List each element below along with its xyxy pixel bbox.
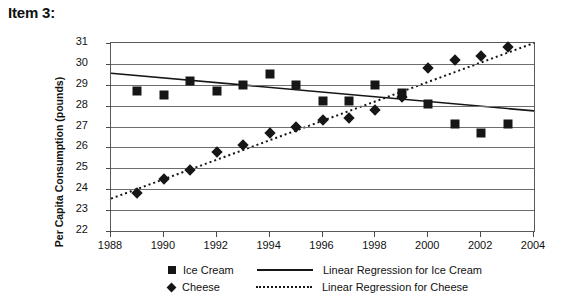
data-point-marker [186, 76, 195, 85]
x-axis-tick-mark [269, 232, 270, 237]
x-axis-tick-mark [427, 232, 428, 237]
data-point-marker [239, 80, 248, 89]
y-axis-tick-mark [106, 189, 111, 190]
x-axis-tick-label: 2004 [521, 239, 545, 251]
y-axis-tick-label: 29 [62, 78, 88, 89]
y-axis-tick-label: 31 [62, 36, 88, 47]
y-axis-tick-label: 27 [62, 120, 88, 131]
data-point-marker [318, 97, 327, 106]
y-axis-tick-mark [106, 64, 111, 65]
chart-plot-svg [111, 43, 534, 231]
legend-row: Ice Cream Linear Regression for Ice Crea… [168, 264, 482, 276]
data-point-marker [265, 70, 274, 79]
page-title: Item 3: [8, 4, 55, 21]
gridline [111, 168, 534, 169]
x-axis-tick-label: 1990 [151, 239, 175, 251]
y-axis-tick-label: 22 [62, 224, 88, 235]
chart-container: Per Capita Consumption (pounds) 22232425… [0, 26, 569, 298]
gridline [111, 189, 534, 190]
y-axis-tick-labels: 22232425262728293031 [62, 26, 88, 236]
plot-area [110, 42, 535, 232]
y-axis-tick-label: 30 [62, 57, 88, 68]
x-axis-tick-mark [110, 232, 111, 237]
y-axis-tick-mark [106, 127, 111, 128]
data-point-marker [424, 99, 433, 108]
x-axis: 198819901992199419961998200020022004 [110, 232, 535, 258]
legend-trendline-label: Linear Regression for Cheese [322, 281, 468, 293]
gridline [111, 210, 534, 211]
x-axis-tick-mark [163, 232, 164, 237]
gridline [111, 147, 534, 148]
data-point-marker [212, 87, 221, 96]
data-point-marker [450, 120, 459, 129]
legend-row: Cheese Linear Regression for Cheese [168, 281, 468, 293]
chart-legend: Ice Cream Linear Regression for Ice Crea… [0, 264, 569, 298]
x-axis-tick-label: 2000 [415, 239, 439, 251]
x-axis-tick-label: 1992 [204, 239, 228, 251]
x-axis-tick-mark [480, 232, 481, 237]
x-axis-tick-mark [533, 232, 534, 237]
y-axis-tick-mark [106, 147, 111, 148]
x-axis-tick-mark [374, 232, 375, 237]
data-point-marker [477, 128, 486, 137]
y-axis-tick-mark [106, 106, 111, 107]
data-point-marker [159, 91, 168, 100]
y-axis-tick-label: 28 [62, 99, 88, 110]
legend-trendline-label: Linear Regression for Ice Cream [323, 264, 482, 276]
x-axis-tick-mark [322, 232, 323, 237]
x-axis-tick-label: 1988 [98, 239, 122, 251]
data-point-marker [292, 80, 301, 89]
gridline [111, 85, 534, 86]
y-axis-tick-mark [106, 43, 111, 44]
y-axis-tick-mark [106, 168, 111, 169]
data-point-marker [133, 87, 142, 96]
y-axis-tick-mark [106, 210, 111, 211]
data-point-marker [344, 97, 353, 106]
x-axis-tick-label: 1996 [309, 239, 333, 251]
y-axis-tick-label: 24 [62, 182, 88, 193]
y-axis-tick-label: 23 [62, 203, 88, 214]
x-axis-tick-label: 2002 [468, 239, 492, 251]
y-axis-tick-mark [106, 85, 111, 86]
x-axis-tick-mark [216, 232, 217, 237]
solid-line-icon [257, 269, 313, 271]
y-axis-tick-label: 25 [62, 161, 88, 172]
gridline [111, 64, 534, 65]
legend-label: Ice Cream [183, 264, 257, 276]
x-axis-tick-label: 1998 [362, 239, 386, 251]
x-axis-tick-label: 1994 [256, 239, 280, 251]
y-axis-tick-label: 26 [62, 140, 88, 151]
data-point-marker [503, 120, 512, 129]
data-point-marker [371, 80, 380, 89]
gridline [111, 127, 534, 128]
square-marker-icon [168, 266, 176, 274]
diamond-marker-icon [167, 282, 177, 292]
dotted-line-icon [256, 286, 312, 288]
legend-label: Cheese [182, 281, 256, 293]
